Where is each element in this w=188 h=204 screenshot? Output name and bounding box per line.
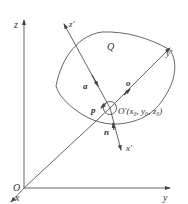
z-prime-label: z′ <box>68 19 76 29</box>
origin-label: O <box>13 182 20 193</box>
position-line <box>24 108 110 188</box>
coordinate-frame-diagram: z y x O z′ y′ x′ O′(x₀, y₀, z₀) Q a o n … <box>0 0 188 204</box>
y-prime-axis <box>110 48 170 108</box>
vector-n-label: n <box>104 127 109 137</box>
vector-p-label: p <box>90 105 96 115</box>
vector-o-arrow <box>124 89 130 95</box>
origin-prime-label: O′(x₀, y₀, z₀) <box>118 106 162 116</box>
z-axis-label: z <box>13 19 18 30</box>
vector-o-label: o <box>126 78 131 88</box>
x-axis-label: x <box>14 192 20 203</box>
y-prime-label: y′ <box>165 48 173 58</box>
vector-a-arrow <box>92 75 98 86</box>
surface-q-label: Q <box>107 41 115 52</box>
vector-a-label: a <box>83 81 88 91</box>
y-axis-label: y <box>162 192 168 203</box>
x-prime-label: x′ <box>125 143 133 153</box>
